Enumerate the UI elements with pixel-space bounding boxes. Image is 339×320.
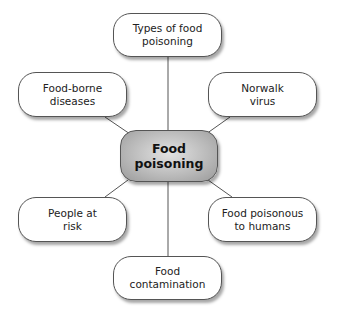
node-label-line2: contamination — [130, 278, 206, 290]
center-label-line2: poisoning — [135, 156, 204, 171]
node-types-of-food-poisoning: Types of foodpoisoning — [113, 13, 222, 57]
node-label-line1: Types of food — [133, 22, 203, 34]
node-food-borne-diseases: Food-bornediseases — [18, 72, 127, 117]
node-label-line1: Norwalk — [241, 82, 284, 94]
node-label-line2: poisoning — [142, 35, 193, 47]
node-label-line2: risk — [63, 220, 82, 232]
node-label-line2: to humans — [235, 220, 291, 232]
node-label-line2: virus — [250, 95, 276, 107]
node-people-at-risk: People atrisk — [18, 197, 127, 242]
node-norwalk-virus: Norwalkvirus — [208, 72, 317, 117]
node-food-poisonous-to-humans: Food poisonousto humans — [208, 197, 317, 242]
center-label-line1: Food — [152, 141, 186, 156]
node-label-line1: Food-borne — [43, 82, 102, 94]
node-label-line1: People at — [48, 207, 97, 219]
center-node-food-poisoning: Foodpoisoning — [120, 130, 218, 182]
node-label-line1: Food — [155, 265, 180, 277]
node-label-line1: Food poisonous — [222, 207, 304, 219]
node-food-contamination: Foodcontamination — [113, 256, 222, 300]
node-label-line2: diseases — [50, 95, 95, 107]
